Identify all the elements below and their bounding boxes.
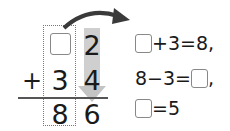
equation-1: +3=8, (135, 32, 214, 54)
answer-box[interactable] (135, 99, 152, 118)
top-ones-digit: 2 (82, 32, 102, 59)
middle-ones-digit: 4 (82, 67, 102, 94)
answer-box[interactable] (191, 69, 208, 88)
middle-tens-digit: 3 (50, 67, 70, 94)
plus-operator: + (22, 68, 42, 95)
result-ones-digit: 6 (82, 101, 102, 128)
tens-blank-box[interactable] (50, 33, 71, 55)
equation-3: =5 (135, 97, 180, 119)
result-tens-digit: 8 (50, 101, 70, 128)
equation-2: 8−3= , (135, 67, 214, 89)
answer-box[interactable] (135, 34, 152, 53)
